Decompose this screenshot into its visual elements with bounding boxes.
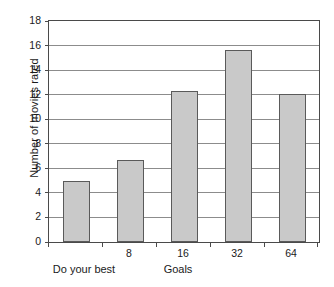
y-tick-mark bbox=[45, 119, 49, 120]
gridline bbox=[49, 45, 319, 46]
bar bbox=[171, 91, 198, 242]
y-tick-mark bbox=[45, 21, 49, 22]
plot-area bbox=[48, 20, 320, 243]
x-tick-label: 32 bbox=[231, 247, 243, 259]
x-tick-mark bbox=[317, 243, 318, 247]
y-tick-mark bbox=[45, 94, 49, 95]
x-tick-label: 64 bbox=[285, 247, 297, 259]
bar bbox=[63, 181, 90, 242]
x-tick-label: 8 bbox=[126, 247, 132, 259]
x-axis-baseline-category-label: Do your best bbox=[53, 263, 115, 275]
x-tick-label: 16 bbox=[177, 247, 189, 259]
y-tick-mark bbox=[45, 168, 49, 169]
bar bbox=[117, 160, 144, 242]
y-tick-mark bbox=[45, 70, 49, 71]
y-tick-mark bbox=[45, 192, 49, 193]
y-tick-label: 12 bbox=[29, 88, 41, 100]
bar bbox=[279, 94, 306, 242]
y-tick-mark bbox=[45, 45, 49, 46]
y-tick-label: 0 bbox=[35, 235, 41, 247]
y-tick-label: 6 bbox=[35, 161, 41, 173]
y-tick-label: 18 bbox=[29, 14, 41, 26]
y-tick-mark bbox=[45, 217, 49, 218]
y-tick-label: 16 bbox=[29, 39, 41, 51]
y-tick-label: 2 bbox=[35, 210, 41, 222]
x-tick-mark bbox=[264, 243, 265, 247]
y-tick-label: 8 bbox=[35, 137, 41, 149]
x-tick-mark bbox=[48, 243, 49, 247]
bar bbox=[225, 50, 252, 242]
y-axis-tick-labels: 024681012141618 bbox=[0, 20, 41, 243]
y-tick-label: 4 bbox=[35, 186, 41, 198]
x-tick-mark bbox=[102, 243, 103, 247]
x-axis-title: Goals bbox=[164, 263, 193, 275]
x-tick-mark bbox=[210, 243, 211, 247]
y-tick-mark bbox=[45, 143, 49, 144]
gridline bbox=[49, 70, 319, 71]
y-tick-label: 14 bbox=[29, 63, 41, 75]
y-tick-label: 10 bbox=[29, 112, 41, 124]
x-tick-mark bbox=[156, 243, 157, 247]
bar-chart-figure: Number of movies rated 024681012141618 D… bbox=[0, 0, 334, 287]
